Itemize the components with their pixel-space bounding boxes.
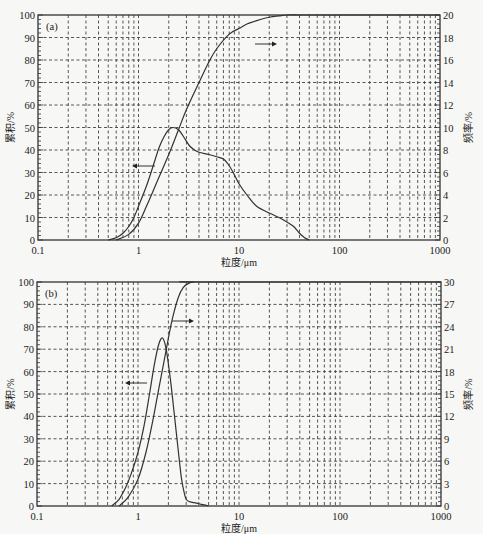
y-tick-label: 30 — [24, 434, 35, 445]
x-tick-label: 100 — [332, 511, 348, 522]
y2-tick-label: 12 — [443, 100, 454, 111]
x-tick-label: 1 — [135, 511, 140, 522]
y-tick-label: 20 — [25, 190, 36, 201]
y2-tick-label: 21 — [444, 344, 455, 355]
y-tick-label: 90 — [24, 299, 35, 310]
y-tick-label: 50 — [25, 123, 36, 134]
y2-tick-label: 14 — [443, 78, 454, 89]
y-tick-label: 50 — [24, 389, 35, 400]
y-tick-label: 10 — [25, 213, 36, 224]
chart-panel-b: 0102030405060708090100036912151821242730… — [5, 277, 474, 534]
arrowhead-icon — [132, 164, 137, 169]
y-tick-label: 20 — [24, 456, 35, 467]
y2-tick-label: 20 — [443, 10, 454, 21]
y2-tick-label: 9 — [444, 434, 449, 445]
y2-axis-title: 频率/% — [462, 378, 474, 409]
x-tick-label: 0.1 — [30, 511, 43, 522]
y-axis-title: 累积/% — [5, 378, 16, 409]
y2-tick-label: 10 — [443, 123, 454, 134]
y-tick-label: 80 — [24, 322, 35, 333]
y-tick-label: 100 — [18, 277, 34, 288]
y2-tick-label: 8 — [443, 145, 448, 156]
x-axis-title: 粒度/μm — [221, 522, 257, 534]
y-tick-label: 80 — [25, 55, 36, 66]
y2-tick-label: 2 — [443, 213, 448, 224]
x-tick-label: 10 — [234, 245, 245, 256]
y2-tick-label: 16 — [443, 55, 454, 66]
x-tick-label: 100 — [332, 245, 348, 256]
tick-labels: 0102030405060708090100024681012141618200… — [19, 10, 454, 256]
y-tick-label: 70 — [25, 78, 36, 89]
y-axis-title: 累积/% — [5, 112, 16, 143]
y2-tick-label: 18 — [443, 33, 454, 44]
grid-lines — [38, 15, 440, 240]
arrowhead-icon — [125, 381, 130, 386]
y-tick-label: 10 — [24, 479, 35, 490]
grid-lines — [37, 282, 441, 506]
x-tick-label: 0.1 — [31, 245, 44, 256]
arrowhead-icon — [189, 319, 194, 324]
panel-label: (b) — [45, 288, 58, 300]
x-tick-label: 1 — [136, 245, 141, 256]
y-tick-label: 100 — [19, 10, 35, 21]
y2-tick-label: 4 — [443, 190, 449, 201]
x-tick-label: 10 — [234, 511, 245, 522]
y2-axis-title: 频率/% — [462, 112, 474, 143]
x-tick-label: 1000 — [430, 245, 451, 256]
x-axis-title: 粒度/μm — [221, 256, 257, 268]
arrowhead-icon — [272, 42, 277, 47]
y-tick-label: 60 — [24, 367, 35, 378]
y-tick-label: 40 — [24, 411, 35, 422]
chart-panel-a: 0102030405060708090100024681012141618200… — [5, 10, 474, 268]
y2-tick-label: 3 — [444, 479, 449, 490]
y2-tick-label: 24 — [444, 322, 455, 333]
y2-tick-label: 30 — [444, 277, 455, 288]
y2-tick-label: 12 — [444, 411, 455, 422]
x-tick-label: 1000 — [431, 511, 452, 522]
y-tick-label: 70 — [24, 344, 35, 355]
y2-tick-label: 6 — [443, 168, 448, 179]
y2-tick-label: 6 — [444, 456, 449, 467]
y2-tick-label: 15 — [444, 389, 455, 400]
panel-label: (a) — [46, 21, 58, 33]
frequency-curve — [112, 338, 209, 506]
particle-size-distribution-figure: 0102030405060708090100024681012141618200… — [0, 0, 483, 534]
y-tick-label: 60 — [25, 100, 36, 111]
y-tick-label: 90 — [25, 33, 36, 44]
tick-labels: 0102030405060708090100036912151821242730… — [18, 277, 455, 522]
y-tick-label: 30 — [25, 168, 36, 179]
y-tick-label: 40 — [25, 145, 36, 156]
y2-tick-label: 27 — [444, 299, 455, 310]
y2-tick-label: 18 — [444, 367, 455, 378]
